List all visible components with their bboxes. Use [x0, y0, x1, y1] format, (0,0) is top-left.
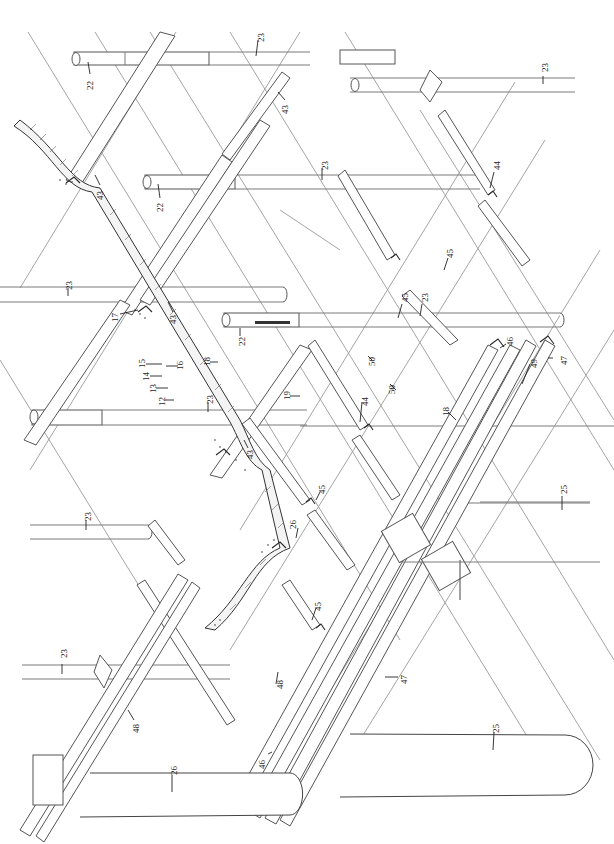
label-46: 46: [500, 337, 515, 349]
label-15: 15: [137, 359, 162, 369]
svg-text:26: 26: [288, 520, 298, 530]
exploded-structural-drawing: 22 23 43 43 22 23 23 44 45 23 17 43 22 4…: [0, 0, 614, 844]
label-50: 50: [387, 384, 397, 394]
svg-text:50: 50: [387, 385, 397, 395]
label-23: 23: [320, 161, 330, 181]
svg-text:45: 45: [445, 249, 455, 259]
svg-text:44: 44: [360, 397, 370, 407]
label-50: 50: [367, 356, 377, 366]
svg-text:13: 13: [148, 384, 158, 394]
label-44: 44: [490, 161, 502, 189]
label-22: 22: [85, 62, 95, 90]
svg-text:23: 23: [83, 512, 93, 522]
svg-text:17: 17: [110, 313, 120, 323]
svg-text:16: 16: [175, 361, 185, 371]
svg-text:22: 22: [237, 337, 247, 346]
label-47: 47: [548, 356, 569, 366]
label-14: 14: [141, 372, 162, 382]
svg-text:23: 23: [205, 395, 215, 405]
svg-text:44: 44: [492, 161, 502, 171]
label-13: 13: [148, 384, 168, 394]
svg-text:14: 14: [141, 372, 151, 382]
label-23: 23: [205, 395, 215, 413]
pipe-22-center: [222, 313, 564, 327]
svg-text:43: 43: [95, 191, 105, 201]
svg-text:23: 23: [420, 293, 430, 303]
svg-text:43: 43: [245, 450, 255, 460]
label-47: 47: [385, 675, 409, 685]
label-26: 26: [288, 520, 298, 539]
pipe-23-top-right: [340, 50, 575, 102]
label-45: 45: [316, 485, 327, 501]
svg-text:15: 15: [137, 359, 147, 369]
label-23: 23: [83, 512, 93, 531]
label-48: 48: [128, 710, 141, 733]
svg-text:25: 25: [559, 485, 569, 495]
label-16: 16: [166, 361, 185, 371]
svg-text:23: 23: [64, 281, 74, 291]
label-45: 45: [398, 293, 410, 319]
svg-text:18: 18: [441, 407, 451, 417]
svg-text:23: 23: [256, 33, 266, 43]
concrete-arch: [14, 120, 290, 630]
pipe-22-mid: [143, 175, 480, 189]
label-25: 25: [559, 485, 569, 511]
svg-text:47: 47: [559, 356, 569, 366]
svg-text:22: 22: [155, 203, 165, 212]
svg-text:46: 46: [505, 337, 515, 347]
svg-text:12: 12: [157, 397, 167, 406]
svg-text:22: 22: [85, 81, 95, 90]
svg-text:43: 43: [168, 315, 178, 325]
svg-text:18: 18: [202, 357, 212, 367]
label-22: 22: [237, 328, 247, 346]
svg-text:23: 23: [320, 161, 330, 171]
svg-text:48: 48: [275, 680, 285, 690]
label-12: 12: [157, 397, 174, 406]
label-43: 43: [278, 92, 290, 114]
label-23: 23: [540, 63, 550, 85]
svg-text:43: 43: [280, 105, 290, 115]
label-23: 23: [59, 649, 69, 675]
svg-text:50: 50: [367, 357, 377, 367]
svg-text:25: 25: [491, 724, 501, 734]
label-45: 45: [444, 249, 455, 271]
label-48: 48: [275, 672, 285, 689]
svg-text:26: 26: [169, 766, 179, 776]
pipe-23-left-lower: [30, 525, 152, 539]
svg-text:19: 19: [282, 391, 292, 401]
svg-text:45: 45: [317, 485, 327, 495]
label-19: 19: [282, 391, 300, 401]
svg-text:23: 23: [540, 63, 550, 73]
svg-text:23: 23: [59, 649, 69, 659]
label-18: 18: [202, 357, 218, 367]
svg-text:46: 46: [257, 760, 267, 770]
label-23: 23: [64, 281, 74, 297]
svg-text:49: 49: [529, 359, 539, 369]
svg-text:48: 48: [131, 724, 141, 734]
svg-text:45: 45: [400, 293, 410, 303]
svg-text:45: 45: [313, 602, 323, 612]
svg-text:47: 47: [399, 675, 409, 685]
pipe-22-top: [72, 52, 310, 66]
